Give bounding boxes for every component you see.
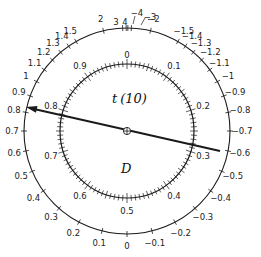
outer-tick-label: −1 — [222, 71, 235, 81]
inner-tick-label: 0.4 — [167, 191, 181, 201]
t-distribution-dial: 00.10.20.30.40.50.60.70.80.911.11.21.31.… — [0, 0, 261, 257]
outer-tick — [184, 44, 187, 49]
outer-tick-label: 0.4 — [27, 193, 41, 203]
outer-tick — [41, 189, 46, 192]
inner-tick-label: 0.8 — [44, 101, 58, 111]
inner-tick-label: 0.7 — [44, 151, 58, 161]
outer-tick-label: 0.1 — [92, 238, 106, 248]
outer-tick-label: −0.1 — [145, 238, 166, 248]
outer-tick-label: −0.8 — [230, 105, 251, 115]
outer-tick-label: 3 — [113, 17, 118, 27]
outer-tick-label: −0.9 — [225, 87, 246, 97]
inner-tick-label: 0.1 — [167, 61, 181, 71]
inner-tick — [85, 181, 91, 189]
t-variable: t — [112, 91, 118, 106]
outer-tick-label: −0.6 — [230, 148, 251, 158]
outer-tick — [23, 112, 29, 113]
outer-tick — [207, 68, 212, 72]
inner-tick — [178, 89, 184, 94]
inner-tick-label: 0.3 — [196, 151, 210, 161]
outer-tick-label: 4 — [122, 17, 127, 27]
outer-tick-label: −0.5 — [223, 171, 244, 181]
arrowhead-icon — [26, 106, 38, 113]
outer-tick-label: 0.3 — [44, 212, 58, 222]
d-scale-label: D — [120, 161, 132, 176]
inner-tick — [190, 122, 196, 123]
inner-tick — [190, 139, 196, 140]
inner-tick-label: 0.6 — [73, 191, 87, 201]
outer-tick-label: −0.3 — [193, 212, 214, 222]
center-pivot-icon — [123, 127, 130, 134]
inner-tick-label: 0.2 — [196, 101, 210, 111]
inner-tick — [163, 73, 169, 81]
inner-tick — [118, 62, 119, 68]
outer-tick-label: 0.8 — [7, 105, 21, 115]
outer-tick-label: 1.5 — [63, 26, 77, 36]
inner-tick — [70, 168, 76, 173]
outer-tick-label: 0.2 — [67, 228, 81, 238]
outer-tick-label: −3 — [144, 12, 157, 22]
outer-tick — [23, 150, 29, 151]
outer-tick-label: −1.2 — [200, 47, 221, 57]
outer-tick-label: 1.1 — [28, 58, 42, 68]
outer-tick-label: −1.1 — [209, 58, 230, 68]
outer-tick-label: −0.2 — [170, 228, 191, 238]
inner-tick — [58, 139, 64, 140]
t-distribution-label: t(10) — [112, 91, 147, 106]
outer-tick-label: −1.5 — [174, 26, 195, 36]
outer-tick-label: 0.7 — [5, 126, 19, 136]
inner-tick — [178, 168, 184, 173]
outer-tick-label: 1 — [23, 71, 28, 81]
inner-tick — [135, 194, 136, 200]
outer-tick — [67, 44, 70, 49]
inner-tick — [85, 73, 91, 81]
inner-tick-label: 0.9 — [73, 61, 87, 71]
outer-tick-label: −4 — [131, 8, 144, 18]
inner-tick — [135, 62, 136, 68]
outer-tick-label: 2 — [98, 14, 103, 24]
inner-tick — [163, 181, 169, 189]
outer-tick-label: 0.5 — [14, 171, 28, 181]
outer-tick-label: 0.6 — [7, 148, 21, 158]
outer-tick-label: −0.4 — [210, 193, 231, 203]
outer-tick-label: 0.9 — [12, 87, 26, 97]
degrees-of-freedom: (10) — [120, 91, 147, 106]
inner-tick-label: 0 — [124, 50, 129, 60]
outer-tick-label: 1.2 — [37, 47, 51, 57]
inner-tick — [70, 89, 76, 94]
outer-tick-label: −0.7 — [232, 126, 253, 136]
outer-tick — [42, 68, 47, 72]
inner-tick — [118, 194, 119, 200]
outer-tick-label: 0 — [124, 241, 129, 251]
inner-tick-label: 0.5 — [120, 206, 134, 216]
inner-tick — [58, 122, 64, 123]
